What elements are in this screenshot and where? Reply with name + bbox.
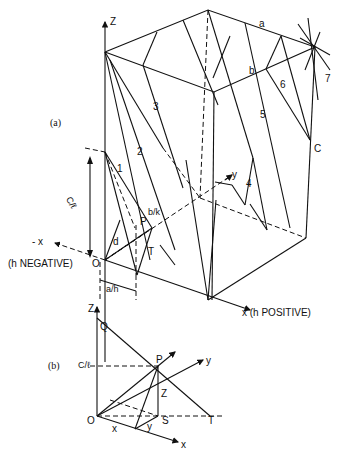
os-dashed: [110, 400, 158, 416]
point-t-label: T: [148, 246, 154, 257]
point-q-label: Q: [100, 321, 108, 332]
y-axis-label-a: y: [232, 169, 237, 180]
z-segment-label: Z: [161, 388, 167, 399]
plane4-tick: [232, 185, 245, 205]
plane3-trace-b: [143, 65, 183, 188]
plane-number-2: 2: [137, 146, 143, 157]
box-bottom-right: [208, 238, 306, 300]
panel-a-label: (a): [50, 117, 61, 129]
plane5-trace: [245, 23, 290, 228]
point-c-label: C: [314, 143, 321, 154]
point-a-label: a: [259, 18, 265, 29]
plane6-top: [266, 36, 281, 69]
origin-label-a: O: [92, 258, 100, 269]
c-over-l-label-a: C/ℓ: [64, 195, 79, 211]
plane4-link: [215, 182, 232, 185]
plane4-top: [183, 20, 218, 105]
panel-b: Z Q (b) C/ℓ P y Z O S T x y x: [48, 303, 225, 450]
plane-number-7: 7: [325, 73, 331, 84]
z-axis-label-b: Z: [88, 303, 94, 314]
panel-a: Z (a) 1 2 3 4 5 6 7 a b C y P T d b/k C/…: [8, 10, 331, 362]
plane-number-4: 4: [246, 178, 252, 189]
b-over-k-label: b/k: [148, 207, 161, 217]
point-b-label: b: [249, 65, 255, 76]
neg-x-label: - x: [32, 236, 43, 247]
box-edge-front: [212, 92, 214, 300]
y-segment-label: y: [147, 421, 152, 432]
point-d-label: d: [113, 236, 119, 247]
plane4-front: [186, 160, 208, 300]
y-axis-arrow: [225, 175, 232, 180]
point-t-label-b: T: [208, 415, 214, 426]
plane6-trace-b: [266, 69, 310, 140]
c-over-l-label-b: C/ℓ: [78, 360, 91, 370]
x-positive-label: x (h POSITIVE): [242, 307, 311, 318]
plane-number-6: 6: [280, 79, 286, 90]
plane3-top-tick: [143, 32, 157, 65]
point-s-label: S: [162, 415, 169, 426]
a-over-h-label: a/h: [106, 284, 119, 294]
box-hidden-edge: [200, 10, 208, 198]
crystal-plane-diagram: Z (a) 1 2 3 4 5 6 7 a b C y P T d b/k C/…: [0, 0, 341, 460]
c-intercept-dash: [85, 148, 105, 152]
plane-low-mid: [160, 245, 175, 265]
point-p-label: P: [140, 216, 147, 227]
plane3-hidden: [163, 148, 200, 198]
h-negative-label: (h NEGATIVE): [8, 258, 73, 269]
panel-b-label: (b): [48, 360, 60, 372]
y-axis-label-b: y: [206, 355, 211, 366]
plane-number-1: 1: [117, 163, 123, 174]
x-axis-label-b: x: [181, 439, 186, 450]
plane-number-5: 5: [260, 109, 266, 120]
point-p-label-b: P: [156, 354, 163, 365]
origin-label-b: O: [87, 415, 95, 426]
plane4-trace: [208, 10, 253, 158]
z-axis-label-a: Z: [110, 16, 116, 27]
plane-number-3: 3: [153, 101, 159, 112]
x-axis-positive: [105, 260, 250, 310]
x-segment-label: x: [112, 423, 117, 434]
plane5-top-tick: [213, 36, 230, 78]
